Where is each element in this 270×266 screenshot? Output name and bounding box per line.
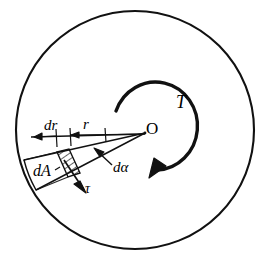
label-dr: dr [44, 118, 57, 133]
element-area-dA-hatch [57, 149, 80, 177]
label-center-O: O [146, 120, 158, 137]
dr-tick-right [70, 128, 71, 146]
label-d-alpha: dα [113, 160, 128, 175]
torsion-figure: dr r dA dα τ O T [0, 0, 270, 266]
torque-arrowhead [149, 158, 166, 178]
label-dA: dA [33, 163, 51, 179]
r-dimension-arrow [71, 132, 143, 138]
dr-arrow-left [34, 133, 56, 140]
dA-leader-line [55, 167, 60, 170]
wedge-lower-radius-line [36, 133, 145, 190]
label-torque-T: T [176, 93, 186, 111]
figure-canvas [0, 0, 270, 266]
label-tau: τ [85, 182, 90, 196]
label-r: r [83, 117, 89, 132]
